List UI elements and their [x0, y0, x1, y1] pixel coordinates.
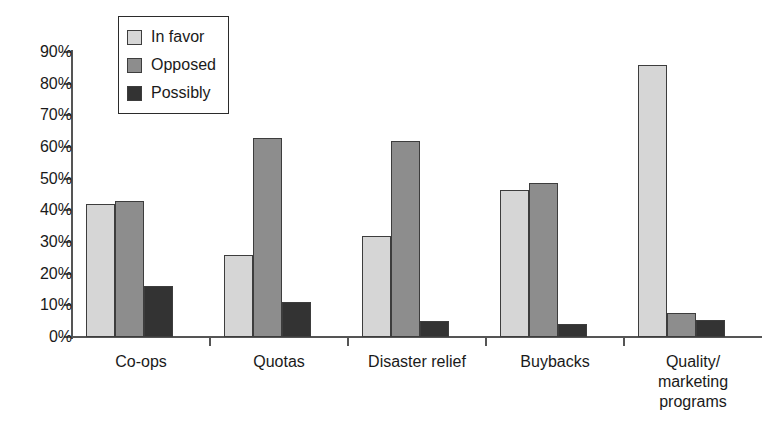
bar-disaster-relief-possibly: [420, 321, 449, 337]
category-label: Disaster relief: [348, 352, 486, 372]
x-axis-tick: [347, 338, 349, 346]
legend-label-in-favor: In favor: [151, 29, 204, 45]
category-label: Buybacks: [486, 352, 624, 372]
y-axis-tick-label: 80%: [16, 76, 72, 92]
bar-buybacks-in-favor: [500, 190, 529, 337]
bar-quotas-in-favor: [224, 255, 253, 337]
legend-label-opposed: Opposed: [151, 57, 216, 73]
x-axis-tick: [623, 338, 625, 346]
bar-quotas-opposed: [253, 138, 282, 338]
category-label: Co-ops: [72, 352, 210, 372]
y-axis-tick-label: 20%: [16, 266, 72, 282]
bar-quotas-possibly: [282, 302, 311, 337]
bar-quality-marketing-programs-possibly: [696, 320, 725, 337]
bar-co-ops-possibly: [144, 286, 173, 337]
bar-buybacks-possibly: [558, 324, 587, 337]
legend-item-opposed: Opposed: [127, 51, 216, 79]
legend-item-in-favor: In favor: [127, 23, 216, 51]
category-label: Quotas: [210, 352, 348, 372]
bar-disaster-relief-opposed: [391, 141, 420, 337]
chart-legend: In favor Opposed Possibly: [118, 16, 229, 114]
category-label-line: Disaster relief: [348, 352, 486, 372]
y-axis-tick-label: 0%: [16, 329, 72, 345]
category-label-line: Co-ops: [72, 352, 210, 372]
bar-co-ops-opposed: [115, 201, 144, 337]
category-label-line: programs: [624, 392, 762, 412]
x-axis-tick: [485, 338, 487, 346]
bar-quality-marketing-programs-opposed: [667, 313, 696, 337]
y-axis-tick-label: 50%: [16, 171, 72, 187]
y-axis-tick-label: 90%: [16, 44, 72, 60]
y-axis-tick-label: 70%: [16, 107, 72, 123]
y-axis-tick-label: 10%: [16, 297, 72, 313]
category-label-line: marketing: [624, 372, 762, 392]
y-axis-tick-label: 60%: [16, 139, 72, 155]
x-axis-tick: [209, 338, 211, 346]
bar-quality-marketing-programs-in-favor: [638, 65, 667, 337]
y-axis-tick-label: 30%: [16, 234, 72, 250]
category-label: Quality/marketingprograms: [624, 352, 762, 412]
bar-co-ops-in-favor: [86, 204, 115, 337]
grouped-bar-chart: 90%80%70%60%50%40%30%20%10%0% Co-opsQuot…: [0, 0, 768, 430]
legend-swatch-in-favor-icon: [127, 30, 142, 45]
legend-swatch-possibly-icon: [127, 86, 142, 101]
bar-disaster-relief-in-favor: [362, 236, 391, 337]
category-label-line: Quality/: [624, 352, 762, 372]
legend-swatch-opposed-icon: [127, 58, 142, 73]
legend-label-possibly: Possibly: [151, 85, 211, 101]
legend-item-possibly: Possibly: [127, 79, 216, 107]
bar-buybacks-opposed: [529, 183, 558, 337]
y-axis-tick-label: 40%: [16, 202, 72, 218]
category-label-line: Buybacks: [486, 352, 624, 372]
category-label-line: Quotas: [210, 352, 348, 372]
